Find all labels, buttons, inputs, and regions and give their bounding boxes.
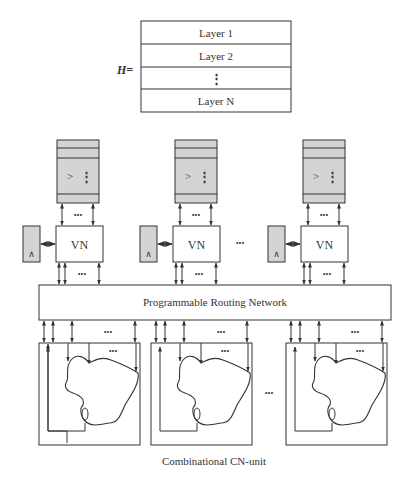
layer-row-ellipsis: ⋮ [210, 71, 223, 86]
cn-unit-ellipsis: ••• [265, 389, 274, 398]
ellipsis: ••• [192, 211, 201, 220]
cn-unit-1: ••• [39, 343, 140, 445]
memory-dots: ⋮ [198, 169, 211, 184]
side-unit-symbol: ∧ [145, 249, 152, 259]
routing-to-cn-links [44, 321, 382, 342]
ellipsis: ••• [195, 270, 204, 279]
ellipsis: ••• [221, 347, 230, 356]
layer-row-2: Layer 2 [199, 50, 233, 62]
memory-stack-3: > ⋮ [303, 140, 345, 203]
h-equals-label: H= [116, 63, 133, 77]
column-3: > ⋮ ••• ∧ VN ••• [268, 140, 348, 284]
side-unit-symbol: ∧ [28, 249, 35, 259]
routing-network-label: Programmable Routing Network [143, 296, 288, 308]
ellipsis: ••• [323, 270, 332, 279]
memory-dots: ⋮ [326, 169, 339, 184]
cn-unit-2: ••• [151, 343, 252, 445]
column-ellipsis: ••• [236, 239, 245, 248]
ellipsis: ••• [109, 347, 118, 356]
column-1: > ⋮ ••• ∧ VN ••• [23, 140, 103, 284]
memory-stack-2: > ⋮ [175, 140, 217, 203]
ellipsis: ••• [78, 270, 87, 279]
memory-stack-1: > ⋮ [57, 140, 99, 203]
ellipsis: ••• [351, 328, 360, 337]
layer-table: H= Layer 1 Layer 2 ⋮ Layer N [116, 21, 291, 112]
ellipsis: ••• [74, 211, 83, 220]
vn-label: VN [71, 238, 89, 252]
vn-label: VN [188, 238, 206, 252]
ellipsis: ••• [104, 328, 113, 337]
cn-unit-3: ••• [286, 343, 387, 445]
ellipsis: ••• [320, 211, 329, 220]
memory-symbol: > [67, 170, 73, 182]
memory-symbol: > [313, 170, 319, 182]
column-2: > ⋮ ••• ∧ VN ••• [140, 140, 220, 284]
vn-label: VN [316, 238, 334, 252]
side-unit-symbol: ∧ [273, 249, 280, 259]
ellipsis: ••• [356, 347, 365, 356]
layer-row-n: Layer N [198, 95, 234, 107]
ellipsis: ••• [217, 328, 226, 337]
architecture-diagram: H= Layer 1 Layer 2 ⋮ Layer N > ⋮ ••• ∧ V… [0, 0, 411, 482]
layer-row-1: Layer 1 [199, 27, 233, 39]
cn-unit-caption: Combinational CN-unit [162, 455, 266, 467]
memory-dots: ⋮ [80, 169, 93, 184]
memory-symbol: > [185, 170, 191, 182]
routing-network: Programmable Routing Network [39, 285, 391, 320]
